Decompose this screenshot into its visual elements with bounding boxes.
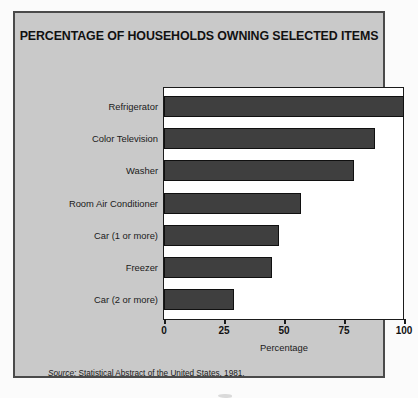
x-tick-mark (404, 319, 406, 324)
x-tick-label: 25 (218, 325, 229, 336)
category-axis-labels: RefrigeratorColor TelevisionWasherRoom A… (35, 88, 158, 319)
category-label: Car (1 or more) (94, 225, 158, 246)
x-tick-mark (164, 319, 166, 324)
category-label: Freezer (126, 257, 158, 278)
x-tick-label: 0 (161, 325, 167, 336)
category-label: Car (2 or more) (94, 289, 158, 310)
x-axis-title: Percentage (163, 342, 405, 353)
scan-artifact (218, 394, 232, 398)
bar-row (164, 160, 404, 181)
bar-row (164, 193, 404, 214)
bars-layer (164, 88, 404, 319)
bar-freezer (164, 257, 272, 278)
chart-title: PERCENTAGE OF HOUSEHOLDS OWNING SELECTED… (15, 29, 383, 43)
bar-color-television (164, 128, 375, 149)
source-note-text: Statistical Abstract of the United State… (76, 369, 244, 378)
category-label: Color Television (92, 128, 158, 149)
bar-row (164, 225, 404, 246)
chart-figure: PERCENTAGE OF HOUSEHOLDS OWNING SELECTED… (0, 0, 418, 398)
x-tick-label: 75 (338, 325, 349, 336)
bar-washer (164, 160, 354, 181)
bar-row (164, 289, 404, 310)
bar-row (164, 257, 404, 278)
bar-row (164, 96, 404, 117)
bar-refrigerator (164, 96, 404, 117)
bar-room-air-conditioner (164, 193, 301, 214)
bar-car-2-or-more (164, 289, 234, 310)
bar-row (164, 128, 404, 149)
bar-car-1-or-more (164, 225, 279, 246)
x-tick-mark (224, 319, 226, 324)
x-tick-mark (284, 319, 286, 324)
category-label: Refrigerator (109, 96, 159, 117)
category-label: Washer (126, 160, 158, 181)
chart-panel: PERCENTAGE OF HOUSEHOLDS OWNING SELECTED… (13, 11, 385, 378)
source-note: Source: Statistical Abstract of the Unit… (48, 369, 245, 378)
x-tick-label: 100 (396, 325, 413, 336)
x-tick-label: 50 (278, 325, 289, 336)
x-tick-mark (344, 319, 346, 324)
category-label: Room Air Conditioner (69, 193, 158, 214)
source-note-lead: Source: (48, 369, 76, 378)
